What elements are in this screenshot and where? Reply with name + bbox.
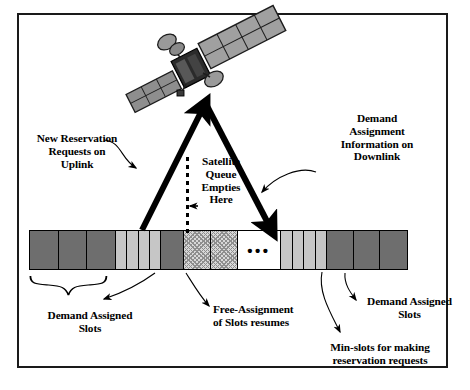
slot-demand-assigned xyxy=(161,231,184,269)
label-min-slots-for-reservation-requests: Min-slots for making reservation request… xyxy=(310,341,450,367)
slot-demand-assigned xyxy=(354,231,381,269)
slot-min-slot xyxy=(116,231,127,269)
slot-demand-assigned xyxy=(380,231,407,269)
slot-min-slot xyxy=(293,231,304,269)
label-demand-assignment-information-downlink: Demand Assignment Information on Downlin… xyxy=(318,112,436,163)
slot-min-slot xyxy=(316,231,327,269)
label-new-reservation-requests-uplink: New Reservation Requests on Uplink xyxy=(21,132,133,170)
slot-min-slot xyxy=(127,231,138,269)
slot-min-slot xyxy=(150,231,161,269)
slot-free-assignment xyxy=(184,231,211,269)
label-demand-assigned-slots-right: Demand Assigned Slots xyxy=(357,295,462,321)
slot-gap-continuation: ••• xyxy=(238,231,282,269)
satellite-slot-diagram: ••• xyxy=(0,0,470,390)
slot-min-slot xyxy=(281,231,292,269)
label-satellite-queue-empties-here: Satellite Queue Empties Here xyxy=(186,155,256,206)
label-demand-assigned-slots-left: Demand Assigned Slots xyxy=(20,309,160,335)
slot-demand-assigned xyxy=(327,231,354,269)
slot-min-slot xyxy=(139,231,150,269)
slot-demand-assigned xyxy=(87,231,116,269)
uplink-frame-slot-bar: ••• xyxy=(29,230,408,270)
ellipsis-label: ••• xyxy=(238,243,281,258)
slot-free-assignment xyxy=(211,231,238,269)
label-free-assignment-of-slots-resumes: Free-Assignment of Slots resumes xyxy=(213,303,353,329)
slot-demand-assigned xyxy=(30,231,59,269)
slot-min-slot xyxy=(304,231,315,269)
slot-demand-assigned xyxy=(59,231,88,269)
